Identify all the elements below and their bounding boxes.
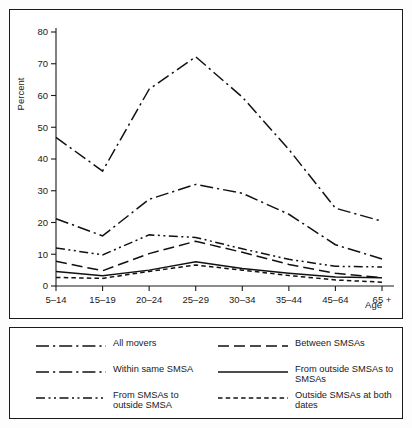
- legend-label: Outside SMSAs at both dates: [289, 390, 403, 411]
- chart-figure: 01020304050607080 5–1415–1920–2425–2930–…: [0, 0, 412, 428]
- legend-item-outside-smsas-at-both-dates: Outside SMSAs at both dates: [209, 390, 403, 416]
- legend-label: All movers: [107, 338, 156, 349]
- legend-line-icon: [35, 391, 107, 405]
- legend-label: From outside SMSAs to SMSAs: [289, 364, 403, 385]
- legend-item-all-movers: All movers: [9, 338, 209, 364]
- legend-row: All movers Between SMSAs: [9, 338, 403, 364]
- legend-grid: All movers Between SMSAs Within same SMS…: [9, 327, 403, 419]
- legend-row: Within same SMSA From outside SMSAs to S…: [9, 364, 403, 390]
- legend-row: From SMSAs to outside SMSA Outside SMSAs…: [9, 390, 403, 416]
- y-axis-title: Percent: [15, 77, 26, 110]
- series-line: [56, 57, 382, 221]
- y-axis-ticks: [51, 32, 56, 286]
- x-axis-ticks: [56, 286, 382, 291]
- y-tick-label: 20: [37, 217, 48, 228]
- series-line: [56, 235, 382, 267]
- data-series-group: [56, 57, 382, 282]
- legend-item-within-same-smsa: Within same SMSA: [9, 364, 209, 390]
- x-tick-label: 35–44: [276, 294, 302, 305]
- legend-label: Between SMSAs: [289, 338, 365, 349]
- legend-label: From SMSAs to outside SMSA: [107, 390, 179, 411]
- x-tick-label: 30–34: [229, 294, 255, 305]
- y-tick-label: 10: [37, 249, 48, 260]
- legend-item-from-smsas-to-outside-smsa: From SMSAs to outside SMSA: [9, 390, 209, 416]
- y-tick-label: 60: [37, 90, 48, 101]
- y-tick-label: 80: [37, 26, 48, 37]
- plot-area: 01020304050607080 5–1415–1920–2425–2930–…: [10, 10, 404, 320]
- x-tick-label: 5–14: [45, 294, 66, 305]
- legend-line-icon: [217, 365, 289, 379]
- x-tick-label: 15–19: [89, 294, 115, 305]
- x-axis-title: Age: [365, 299, 382, 310]
- line-chart-svg: 01020304050607080 5–1415–1920–2425–2930–…: [10, 10, 401, 317]
- legend-item-from-outside-smsas-to-smsas: From outside SMSAs to SMSAs: [209, 364, 403, 390]
- legend-line-icon: [35, 339, 107, 353]
- y-tick-label: 40: [37, 153, 48, 164]
- legend-line-icon: [217, 339, 289, 353]
- series-line: [56, 184, 382, 259]
- y-tick-label: 50: [37, 122, 48, 133]
- legend-item-between-smsas: Between SMSAs: [209, 338, 403, 364]
- x-tick-label: 45–64: [322, 294, 348, 305]
- legend-line-icon: [217, 391, 289, 405]
- y-axis-tick-labels: 01020304050607080: [37, 26, 48, 291]
- legend-line-icon: [35, 365, 107, 379]
- series-line: [56, 241, 382, 278]
- y-tick-label: 0: [43, 280, 48, 291]
- y-tick-label: 70: [37, 58, 48, 69]
- legend-label: Within same SMSA: [107, 364, 193, 375]
- x-tick-label: 25–29: [183, 294, 209, 305]
- x-axis-tick-labels: 5–1415–1920–2425–2930–3435–4445–6465 +: [45, 294, 391, 305]
- x-tick-label: 20–24: [136, 294, 162, 305]
- series-line: [56, 265, 382, 282]
- y-tick-label: 30: [37, 185, 48, 196]
- chart-panel: 01020304050607080 5–1415–1920–2425–2930–…: [9, 9, 403, 319]
